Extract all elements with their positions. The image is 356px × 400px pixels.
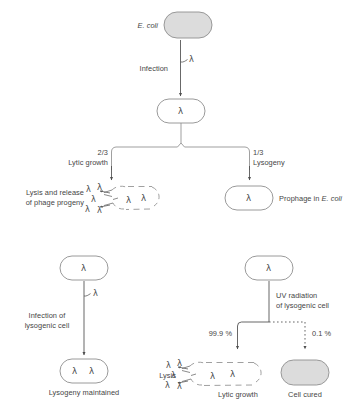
released-phage-symbol: λ	[177, 381, 182, 391]
uv-lytic-growth-label: Lytic growth	[196, 390, 280, 399]
released-phage-symbol: λ	[165, 380, 170, 390]
lysed-cell-bottom	[178, 362, 261, 385]
released-phage-symbol: λ	[166, 360, 171, 370]
uv-lytic-percent-label: 99.9 %	[186, 329, 232, 338]
released-phage-symbol: λ	[97, 182, 102, 192]
lysis-release-label-line2: of phage progeny	[6, 198, 84, 207]
released-phage-symbol: λ	[86, 184, 91, 194]
lysogeny-maintained-label: Lysogeny maintained	[37, 388, 131, 397]
released-phage-symbol: λ	[171, 370, 176, 380]
lysogeny-maintained-phage-symbol: λ	[89, 366, 94, 376]
released-phage-symbol: λ	[91, 194, 96, 204]
uv-source-phage-symbol: λ	[266, 263, 271, 273]
branch-brace-right	[181, 143, 250, 170]
lysogeny-maintained-cell	[60, 359, 108, 383]
burst-cell-phage-symbol: λ	[141, 193, 146, 203]
infection-label: Infection	[100, 64, 168, 73]
infection-phage-symbol: λ	[189, 54, 194, 64]
infected-cell-phage-symbol: λ	[178, 106, 183, 116]
uv-radiation-label-line1: UV radiation	[276, 291, 356, 300]
released-phage-symbol: λ	[177, 358, 182, 368]
lysis-release-label-line1: Lysis and release	[6, 188, 84, 197]
lambda-phage-life-cycle-diagram: E. coli λ Infection λ 2/3 Lytic growth 1…	[0, 0, 356, 400]
prophage-label: Prophage in E. coli	[279, 194, 355, 203]
infection-phage-connector	[181, 60, 188, 63]
lysogenic-source-phage-symbol: λ	[81, 263, 86, 273]
released-phage-symbol: λ	[85, 204, 90, 214]
cell-cured-cell	[281, 360, 329, 385]
burst-cell-phage-symbol: λ	[126, 195, 131, 205]
uv-cured-percent-label: 0.1 %	[312, 329, 354, 338]
prophage-cell-phage-symbol: λ	[246, 193, 251, 203]
lytic-growth-label: Lytic growth	[30, 158, 108, 167]
lysogeny-label: Lysogeny	[253, 158, 331, 167]
host-ecoli-label: E. coli	[96, 21, 158, 30]
prophage-label-text: Prophage in	[279, 194, 322, 203]
uv-radiation-label-line2: of lysogenic cell	[276, 301, 356, 310]
lysogenic-infection-label-line2: lysogenic cell	[18, 321, 76, 330]
lysogenic-phage-connector	[84, 294, 91, 296]
burst-cell-phage-symbol: λ	[210, 371, 215, 381]
uv-lytic-branch	[238, 322, 270, 349]
prophage-label-species: E. coli	[322, 194, 342, 203]
lysogeny-maintained-phage-symbol: λ	[72, 366, 77, 376]
released-phage-symbol: λ	[97, 205, 102, 215]
burst-cell-phage-symbol: λ	[230, 369, 235, 379]
branch-brace	[111, 143, 181, 170]
lytic-fraction-label: 2/3	[46, 148, 108, 157]
lysogeny-fraction-label: 1/3	[253, 148, 315, 157]
uv-cured-branch	[269, 322, 305, 349]
lysogenic-infection-label-line1: Infection of	[18, 311, 76, 320]
lysogenic-infection-phage-symbol: λ	[93, 288, 98, 298]
cell-cured-label: Cell cured	[272, 390, 338, 399]
host-ecoli-cell	[164, 12, 212, 38]
